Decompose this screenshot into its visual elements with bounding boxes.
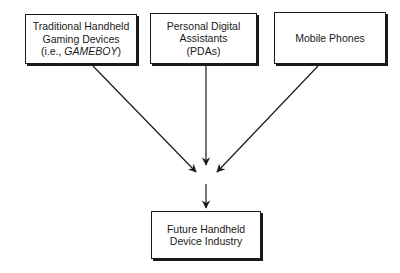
box-label-line: Traditional Handheld [33, 20, 130, 33]
box-personal-digital-assistants: Personal Digital Assistants (PDAs) [150, 13, 257, 64]
arrow-gaming-to-convergence [93, 66, 196, 172]
box-mobile-phones: Mobile Phones [274, 12, 386, 64]
box-label-line: Mobile Phones [295, 32, 364, 45]
label-suffix: ) [117, 45, 121, 57]
box-future-handheld-device-industry: Future Handheld Device Industry [151, 211, 261, 259]
box-label-line: Device Industry [167, 235, 245, 248]
box-label-line: (i.e., GAMEBOY) [33, 45, 130, 58]
label-prefix: (i.e., [41, 45, 64, 57]
box-label-line: Assistants [167, 32, 241, 45]
label-italic-gameboy: GAMEBOY [64, 45, 117, 57]
box-traditional-gaming-devices: Traditional Handheld Gaming Devices (i.e… [25, 14, 137, 64]
box-label-line: Future Handheld [167, 223, 245, 236]
arrow-mobile-to-convergence [217, 66, 318, 172]
box-label-line: (PDAs) [167, 45, 241, 58]
box-label-line: Personal Digital [167, 20, 241, 33]
box-label-line: Gaming Devices [33, 33, 130, 46]
